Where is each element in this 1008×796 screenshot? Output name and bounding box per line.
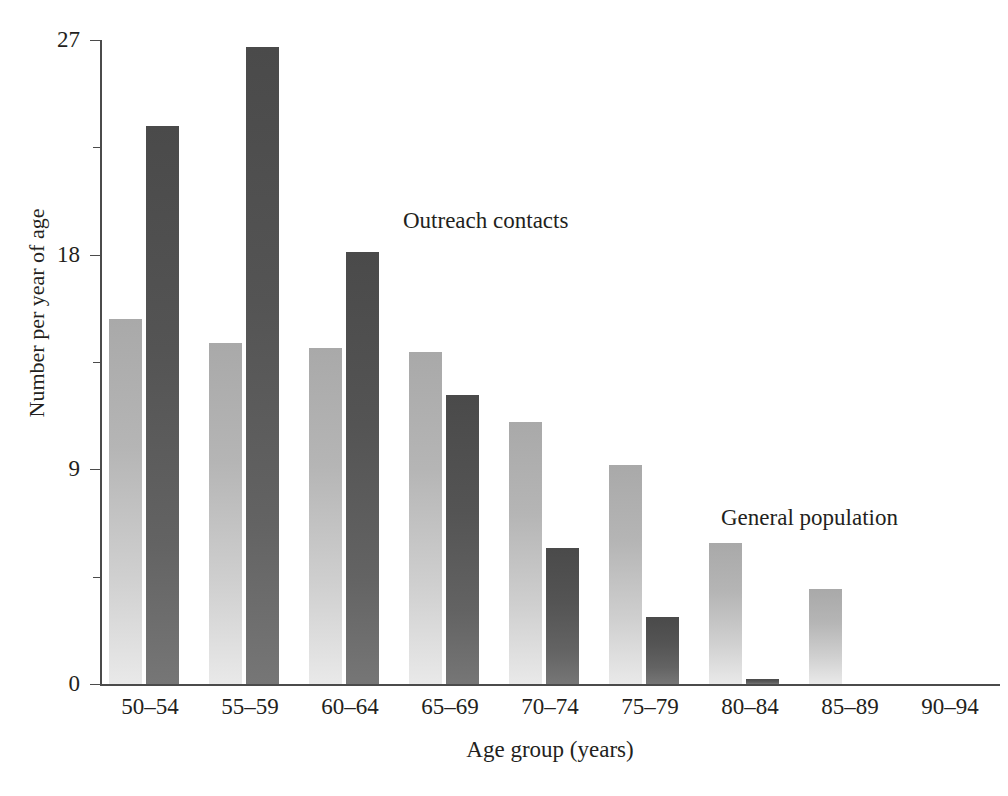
bar-outreach-contacts-60-64 bbox=[346, 252, 379, 684]
bar-general-population-55-59 bbox=[209, 343, 242, 684]
y-tick-label-27: 27 bbox=[8, 28, 80, 51]
bar-general-population-85-89 bbox=[809, 589, 842, 684]
bar-outreach-contacts-65-69 bbox=[446, 395, 479, 684]
bar-general-population-75-79 bbox=[609, 465, 642, 684]
bar-outreach-contacts-80-84 bbox=[746, 679, 779, 684]
y-tick-label-0: 0 bbox=[8, 672, 80, 695]
x-tick-label-70-74: 70–74 bbox=[500, 694, 600, 720]
x-tick-label-85-89: 85–89 bbox=[800, 694, 900, 720]
x-tick-label-55-59: 55–59 bbox=[200, 694, 300, 720]
x-tick-label-90-94: 90–94 bbox=[900, 694, 1000, 720]
bar-general-population-80-84 bbox=[709, 543, 742, 684]
x-axis-title: Age group (years) bbox=[100, 737, 1000, 763]
annotation-outreach-contacts: Outreach contacts bbox=[403, 208, 568, 234]
x-tick-label-80-84: 80–84 bbox=[700, 694, 800, 720]
bar-outreach-contacts-50-54 bbox=[146, 126, 179, 684]
chart-figure: 091827 Number per year of age 50–5455–59… bbox=[0, 0, 1008, 796]
x-tick-label-65-69: 65–69 bbox=[400, 694, 500, 720]
y-axis-title: Number per year of age bbox=[24, 113, 50, 513]
bar-general-population-65-69 bbox=[409, 352, 442, 684]
bar-outreach-contacts-70-74 bbox=[546, 548, 579, 684]
plot-area bbox=[100, 40, 1000, 684]
bar-general-population-50-54 bbox=[109, 319, 142, 684]
bar-outreach-contacts-75-79 bbox=[646, 617, 679, 684]
annotation-general-population: General population bbox=[721, 505, 898, 531]
x-tick-label-75-79: 75–79 bbox=[600, 694, 700, 720]
x-tick-label-50-54: 50–54 bbox=[100, 694, 200, 720]
bar-general-population-70-74 bbox=[509, 422, 542, 684]
bar-general-population-60-64 bbox=[309, 348, 342, 684]
bar-outreach-contacts-55-59 bbox=[246, 47, 279, 684]
x-axis-line bbox=[100, 684, 1000, 686]
y-tick-0 bbox=[90, 684, 101, 685]
x-tick-label-60-64: 60–64 bbox=[300, 694, 400, 720]
